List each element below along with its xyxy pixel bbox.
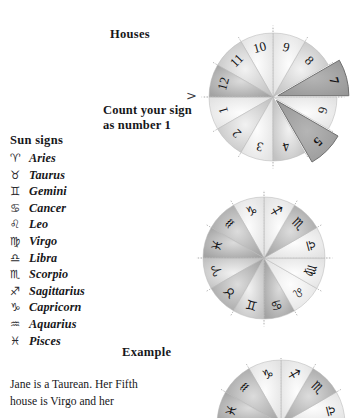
zodiac-cancer-icon: ♋ — [10, 200, 29, 217]
sun-sign-row: ♎Libra — [10, 250, 128, 267]
sun-sign-label: Aquarius — [29, 316, 77, 333]
zodiac-wheel: ♈♉♊♋♌♍♎♏♐♑♒♓ — [196, 190, 336, 330]
sun-sign-row: ♍Virgo — [10, 233, 128, 250]
wheel-tick — [238, 153, 241, 157]
wheel-tick — [231, 312, 234, 316]
sun-sign-row: ♌Leo — [10, 216, 128, 233]
zodiac-leo-icon: ♌ — [10, 216, 29, 233]
zodiac-pisces-icon: ♓ — [10, 333, 29, 350]
sun-sign-label: Aries — [29, 150, 56, 167]
example-title: Example — [122, 345, 171, 360]
start-pointer-marker: > — [186, 88, 197, 103]
wheel-tick — [206, 225, 210, 228]
sun-sign-label: Gemini — [29, 183, 67, 200]
wheel-tick — [295, 312, 298, 316]
zodiac-virgo-icon: ♍ — [10, 233, 29, 250]
wheel-tick — [231, 200, 234, 204]
wheel-tick — [212, 130, 216, 133]
sun-sign-row: ♏Scorpio — [10, 266, 128, 283]
example-wheel: ♈♉♊♋♌♍♎♏♐♑♒♓ — [213, 358, 355, 418]
wheel-tick — [246, 363, 249, 367]
zodiac-taurus-icon: ♉ — [10, 167, 29, 184]
sun-sign-label: Cancer — [29, 200, 66, 217]
houses-wheel: 123456789101112 — [186, 10, 355, 186]
wheel-tick — [212, 62, 216, 65]
sun-sign-label: Leo — [29, 216, 48, 233]
sun-sign-row: ♈Aries — [10, 150, 128, 167]
sun-sign-label: Sagittarius — [29, 283, 85, 300]
zodiac-capricorn-icon: ♑ — [10, 299, 29, 316]
wheel-tick — [318, 289, 322, 292]
zodiac-sagittarius-icon: ♐ — [10, 283, 29, 300]
sun-sign-label: Libra — [29, 250, 57, 267]
sun-sign-row: ♋Cancer — [10, 200, 128, 217]
wheel-tick — [337, 389, 341, 392]
sun-sign-row: ♒Aquarius — [10, 316, 128, 333]
count-instruction: Count your sign as number 1 — [103, 103, 195, 133]
sun-sign-label: Scorpio — [29, 266, 68, 283]
wheel-tick — [318, 225, 322, 228]
houses-title: Houses — [110, 27, 150, 42]
sun-sign-label: Virgo — [29, 233, 57, 250]
houses-slices — [209, 33, 349, 162]
wheel-tick — [238, 36, 241, 40]
sun-signs-title: Sun signs — [10, 133, 63, 148]
sun-sign-label: Taurus — [29, 167, 65, 184]
sun-signs-list: ♈Aries♉Taurus♊Gemini♋Cancer♌Leo♍Virgo♎Li… — [10, 150, 128, 349]
sun-sign-row: ♐Sagittarius — [10, 283, 128, 300]
zodiac-scorpio-icon: ♏ — [10, 266, 29, 283]
zodiac-aries-icon: ♈ — [10, 150, 29, 167]
example-line-1: Jane is a Taurean. Her Fifth — [10, 377, 170, 394]
sun-sign-label: Pisces — [29, 333, 61, 350]
wheel-tick — [220, 389, 224, 392]
zodiac-libra-icon: ♎ — [10, 250, 29, 267]
sun-sign-label: Capricorn — [29, 299, 81, 316]
zodiac-gemini-icon: ♊ — [10, 183, 29, 200]
zodiac-aquarius-icon: ♒ — [10, 316, 29, 333]
sun-sign-row: ♑Capricorn — [10, 299, 128, 316]
sun-sign-row: ♉Taurus — [10, 167, 128, 184]
wheel-tick — [306, 36, 309, 40]
wheel-tick — [206, 289, 210, 292]
wheel-tick — [295, 200, 298, 204]
example-paragraph: Jane is a Taurean. Her Fifth house is Vi… — [10, 377, 170, 410]
example-line-2: house is Virgo and her — [10, 394, 170, 411]
sun-sign-row: ♓Pisces — [10, 333, 128, 350]
sun-sign-row: ♊Gemini — [10, 183, 128, 200]
wheel-tick — [314, 363, 317, 367]
